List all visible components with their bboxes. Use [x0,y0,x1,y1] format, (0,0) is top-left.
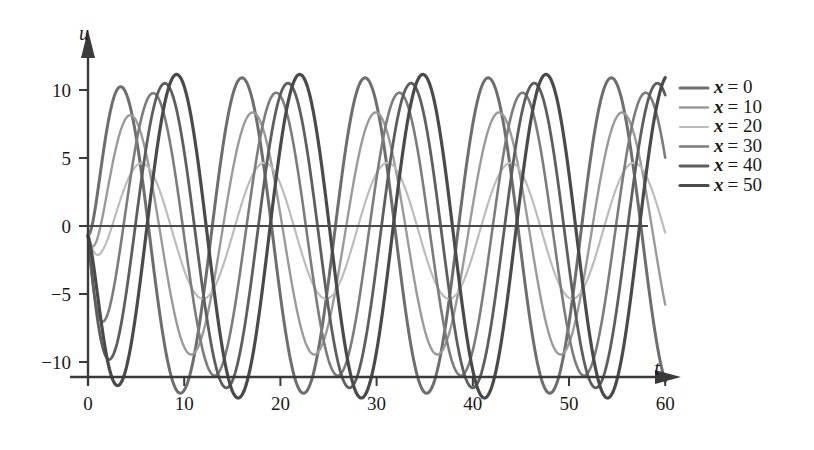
curve-group [88,74,665,398]
legend-label-x-30: x= 30 [713,135,762,156]
oscillation-line-chart: 01020304050601050−5−10 u t x= 0x= 10x= 2… [0,0,814,450]
x-axis-label: t [654,357,660,379]
legend-label-x-20: x= 20 [713,115,762,136]
legend-label-x-0: x= 0 [713,76,752,97]
x-tick-label-30: 30 [367,393,386,414]
x-tick-label-40: 40 [463,393,482,414]
y-tick-label-0: 0 [62,216,72,237]
y-axis-label: u [79,22,89,44]
x-tick-label-10: 10 [175,393,194,414]
y-tick-label-5: 5 [62,148,72,169]
legend-label-x-10: x= 10 [713,96,762,117]
series-line-x-10 [88,112,665,354]
x-tick-label-20: 20 [271,393,290,414]
x-tick-label-60: 60 [656,393,675,414]
chart-figure: 01020304050601050−5−10 u t x= 0x= 10x= 2… [0,0,814,450]
y-tick-label--10: −10 [41,352,71,373]
legend-label-x-40: x= 40 [713,154,762,175]
x-tick-label-50: 50 [560,393,579,414]
legend: x= 0x= 10x= 20x= 30x= 40x= 50 [680,76,762,195]
y-tick-label--5: −5 [51,284,71,305]
legend-label-x-50: x= 50 [713,174,762,195]
y-tick-label-10: 10 [52,80,71,101]
x-tick-label-0: 0 [83,393,93,414]
